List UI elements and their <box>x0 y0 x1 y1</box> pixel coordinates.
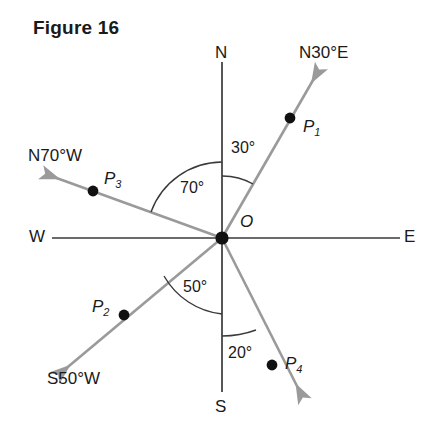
label-origin: O <box>240 213 253 230</box>
label-angle-20: 20° <box>228 345 252 361</box>
label-bearing-n70w: N70°W <box>28 147 82 164</box>
arc-30-degrees <box>222 176 253 184</box>
point-p3-index: 3 <box>115 178 121 190</box>
arc-20-degrees <box>222 330 256 336</box>
ray-n30e <box>222 75 316 238</box>
label-point-p4: P4 <box>285 355 302 375</box>
point-p1-letter: P <box>303 117 314 136</box>
plotted-points <box>88 113 296 371</box>
point-p4-index: 4 <box>296 363 302 375</box>
label-angle-30: 30° <box>231 140 255 156</box>
compass-axes <box>52 62 400 392</box>
label-north: N <box>215 44 227 61</box>
bearing-rays <box>51 75 316 392</box>
point-p4 <box>267 360 278 371</box>
point-p2 <box>119 310 130 321</box>
label-angle-50: 50° <box>183 279 207 295</box>
label-south: S <box>215 398 226 415</box>
label-east: E <box>404 228 415 245</box>
label-point-p1: P1 <box>303 118 320 138</box>
figure-caption: Figure 16 <box>33 18 119 37</box>
point-p1 <box>285 113 296 124</box>
point-p1-index: 1 <box>314 126 320 138</box>
point-p3-letter: P <box>104 169 115 188</box>
label-point-p2: P2 <box>92 298 109 318</box>
figure-16-container: Figure 16 N S E W O N30°E N70°W S50°W 30… <box>0 0 437 439</box>
label-bearing-n30e: N30°E <box>299 44 348 61</box>
point-origin <box>215 231 228 244</box>
point-p2-letter: P <box>92 297 103 316</box>
point-p2-index: 2 <box>103 306 109 318</box>
ray-s50w <box>63 238 222 371</box>
point-p3 <box>88 186 99 197</box>
point-p4-letter: P <box>285 354 296 373</box>
label-west: W <box>29 228 45 245</box>
label-point-p3: P3 <box>104 170 121 190</box>
label-angle-70: 70° <box>180 180 204 196</box>
label-bearing-s50w: S50°W <box>47 370 100 387</box>
